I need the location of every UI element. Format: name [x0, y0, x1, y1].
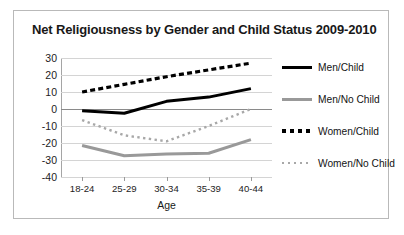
y-tick-label: 10 [31, 87, 57, 97]
y-tick-label: -10 [31, 121, 57, 131]
legend-swatch-icon [282, 93, 312, 105]
y-tick-label: -20 [31, 138, 57, 148]
series-line-2 [82, 63, 251, 92]
y-tick-label: 20 [31, 70, 57, 80]
chart-frame: Net Religiousness by Gender and Child St… [13, 10, 389, 219]
legend-label: Men/Child [318, 62, 364, 73]
series-line-0 [82, 89, 251, 114]
series-lines [61, 58, 272, 177]
legend-label: Men/No Child [318, 94, 380, 105]
x-axis-tick-labels: 18-2425-2930-3435-3940-44 [61, 183, 272, 197]
x-tick-label: 40-44 [228, 183, 274, 194]
legend-swatch-icon [282, 157, 312, 169]
y-axis-tick-labels: 3020100-10-20-30-40 [28, 58, 57, 177]
y-tick-label: 0 [31, 104, 57, 114]
x-tick [124, 177, 125, 181]
x-tick-label: 35-39 [186, 183, 232, 194]
legend-item[interactable]: Men/No Child [282, 92, 380, 106]
plot-area [61, 58, 272, 177]
legend-swatch-icon [282, 61, 312, 73]
chart-legend: Men/ChildMen/No ChildWomen/ChildWomen/No… [282, 60, 398, 180]
x-tick [209, 177, 210, 181]
x-tick-label: 18-24 [59, 183, 105, 194]
legend-label: Women/Child [318, 126, 379, 137]
legend-item[interactable]: Women/No Child [282, 156, 395, 170]
y-tick-label: 30 [31, 53, 57, 63]
chart-title: Net Religiousness by Gender and Child St… [32, 22, 377, 37]
x-axis-title: Age [61, 199, 272, 211]
x-tick-label: 30-34 [144, 183, 190, 194]
legend-item[interactable]: Men/Child [282, 60, 364, 74]
legend-item[interactable]: Women/Child [282, 124, 379, 138]
series-line-3 [82, 109, 251, 141]
x-tick [82, 177, 83, 181]
x-tick [167, 177, 168, 181]
legend-swatch-icon [282, 125, 312, 137]
x-tick [251, 177, 252, 181]
legend-label: Women/No Child [318, 158, 395, 169]
y-tick-label: -30 [31, 155, 57, 165]
x-tick-label: 25-29 [101, 183, 147, 194]
y-tick-label: -40 [31, 172, 57, 182]
